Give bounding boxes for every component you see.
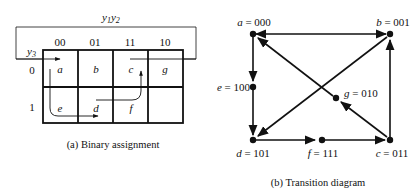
kmap-col-header: 01 (90, 36, 101, 48)
kmap-caption: (a) Binary assignment (67, 139, 160, 151)
kmap-col-header: 00 (55, 36, 67, 48)
kmap-row-var-label: y3 (26, 45, 36, 59)
kmap-cell: a (57, 63, 63, 75)
kmap-col-header: 10 (160, 36, 172, 48)
node-d (250, 137, 256, 143)
kmap-cell: d (93, 102, 99, 114)
diagram-caption: (b) Transition diagram (271, 177, 366, 189)
edge-g-a (258, 38, 333, 96)
node-label-d: d = 101 (236, 147, 270, 159)
kmap-cell: e (58, 102, 63, 114)
kmap-panel: y1y2 00 01 11 10 y3 0 1 a b c g e d f (16, 11, 196, 151)
kmap-cell: g (162, 63, 168, 75)
node-f (319, 137, 325, 143)
node-e (250, 84, 256, 90)
kmap-column-var-label: y1y2 (101, 11, 120, 25)
kmap-cell: f (129, 102, 134, 114)
kmap-cell: b (93, 63, 99, 75)
figure-canvas: y1y2 00 01 11 10 y3 0 1 a b c g e d f (0, 0, 418, 192)
node-label-g: g = 010 (344, 87, 378, 99)
edge-c-g (341, 102, 387, 137)
node-label-f: f = 111 (308, 147, 338, 159)
arrow-d-f-c (96, 71, 141, 100)
kmap-row-header: 0 (29, 64, 35, 76)
kmap-grid (43, 50, 183, 123)
node-b (387, 31, 393, 37)
kmap-row-header: 1 (29, 101, 35, 113)
kmap-col-header: 11 (125, 36, 136, 48)
node-label-e: e = 100 (217, 81, 251, 93)
node-label-a: a = 000 (237, 16, 271, 28)
node-g (333, 95, 339, 101)
node-label-c: c = 011 (376, 147, 409, 159)
kmap-cell: c (129, 63, 134, 75)
transition-diagram-panel: a = 000 b = 001 e = 100 g = 010 d = 101 … (217, 16, 410, 189)
node-label-b: b = 001 (376, 16, 410, 28)
node-c (387, 137, 393, 143)
node-a (250, 31, 256, 37)
